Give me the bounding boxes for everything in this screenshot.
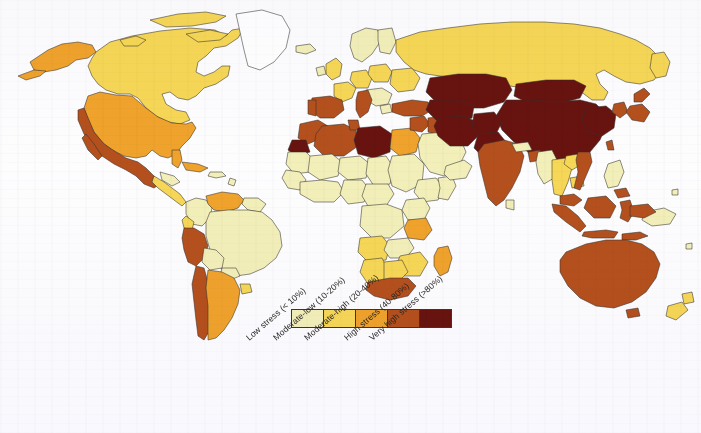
region-us-florida [172, 150, 182, 168]
region-philippines [604, 160, 624, 188]
region-canada-arctic-1 [150, 12, 226, 27]
region-argentina [206, 270, 240, 340]
region-japan [634, 88, 650, 102]
region-sri-lanka [506, 200, 514, 210]
legend: Low stress (< 10%) Moderate-low (10-20%)… [291, 309, 452, 328]
region-new-zealand-north [682, 292, 694, 304]
region-lesser-sunda [622, 232, 648, 240]
region-java [582, 230, 618, 238]
region-aleutians [18, 70, 46, 80]
region-nepal [512, 142, 532, 152]
region-alaska [30, 42, 96, 72]
region-ukraine [390, 68, 420, 92]
region-guinea-coast [300, 180, 344, 202]
region-tanzania [404, 218, 432, 240]
region-ireland [316, 66, 326, 76]
region-mali [308, 154, 342, 180]
region-kenya [402, 198, 430, 220]
region-cameroon-car [362, 184, 394, 206]
region-lesser-antilles [228, 178, 236, 186]
region-libya [354, 126, 392, 158]
region-island-small-1 [672, 189, 678, 195]
region-portugal [308, 100, 316, 116]
region-italy [356, 90, 372, 118]
region-uruguay [240, 284, 252, 294]
region-japan-honshu [626, 104, 650, 122]
region-syria [410, 116, 430, 132]
region-madagascar [434, 246, 452, 276]
figure-container: Low stress (< 10%) Moderate-low (10-20%)… [0, 0, 701, 433]
legend-swatch-very-high-stress [420, 310, 451, 327]
region-finland [378, 28, 396, 54]
region-niger [338, 156, 370, 180]
region-new-zealand-south [666, 302, 688, 320]
world-map [0, 0, 701, 433]
region-taiwan [606, 140, 614, 150]
region-greenland [236, 10, 290, 70]
region-tasmania [626, 308, 640, 318]
region-scandinavia [350, 28, 380, 62]
region-greece [380, 104, 392, 114]
region-hispaniola [208, 172, 226, 178]
region-philippines-south [614, 188, 630, 198]
region-cuba [182, 162, 208, 172]
region-iceland [296, 44, 316, 54]
region-borneo [584, 196, 616, 218]
region-turkey [392, 100, 432, 116]
region-egypt [390, 128, 420, 156]
region-dr-congo [360, 204, 404, 238]
region-australia [560, 240, 660, 308]
region-island-small-2 [686, 243, 692, 249]
region-sumatra [552, 204, 586, 232]
region-malaysia [560, 194, 582, 206]
region-united-kingdom [326, 58, 342, 80]
